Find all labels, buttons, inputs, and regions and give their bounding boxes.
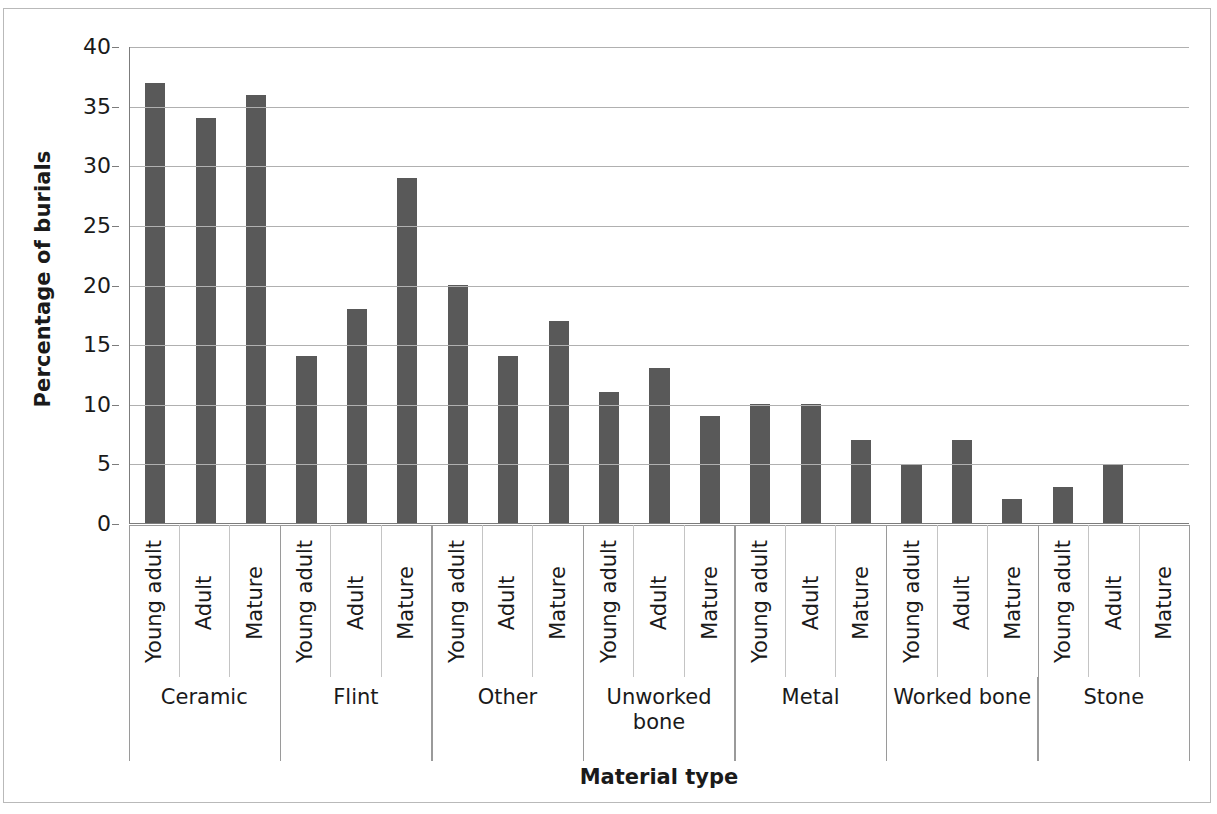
bar (196, 118, 216, 523)
age-label: Mature (1001, 543, 1025, 663)
y-axis-tick-mark (112, 345, 119, 346)
age-label: Young adult (445, 543, 469, 663)
age-label-cell: Mature (533, 525, 584, 677)
age-label-cell: Young adult (887, 525, 938, 677)
age-label-cell: Adult (331, 525, 382, 677)
age-label: Mature (1152, 543, 1176, 663)
y-axis-tick-label: 0 (63, 513, 111, 535)
age-label-cell: Adult (483, 525, 534, 677)
material-group-label-cell: Stone (1038, 677, 1189, 761)
age-label: Mature (394, 543, 418, 663)
y-axis-tick-mark (112, 226, 119, 227)
y-axis-tick-label: 35 (63, 96, 111, 118)
age-label-cell: Mature (1140, 525, 1190, 677)
chart-frame: Percentage of burials 4035302520151050 Y… (3, 8, 1211, 803)
age-label-cell: Mature (685, 525, 736, 677)
age-label: Mature (546, 543, 570, 663)
y-axis-title: Percentage of burials (28, 139, 58, 419)
age-label: Mature (243, 543, 267, 663)
material-group-label: Metal (782, 685, 840, 710)
bar (347, 309, 367, 523)
age-label-cell: Young adult (432, 525, 483, 677)
age-label-cell: Young adult (735, 525, 786, 677)
material-group-label: Worked bone (893, 685, 1031, 710)
y-axis-tick-mark (112, 47, 119, 48)
y-axis-tick-mark (112, 107, 119, 108)
material-group-label-cell: Worked bone (887, 677, 1039, 761)
bar (145, 83, 165, 523)
material-group-label-cell: Other (432, 677, 584, 761)
age-group-labels: Young adultAdultMatureYoung adultAdultMa… (129, 525, 1189, 677)
x-axis-title: Material type (129, 765, 1189, 789)
gridline (130, 47, 1189, 48)
material-group-label-cell: Flint (281, 677, 433, 761)
bar (901, 464, 921, 524)
age-label-cell: Adult (180, 525, 231, 677)
gridline (130, 345, 1189, 346)
material-group-label-cell: Unworked bone (584, 677, 736, 761)
age-label-cell: Adult (786, 525, 837, 677)
age-label-cell: Adult (1089, 525, 1140, 677)
bar (549, 321, 569, 523)
y-axis-tick-mark (112, 286, 119, 287)
age-label: Young adult (597, 543, 621, 663)
gridline (130, 166, 1189, 167)
group-separator (432, 525, 433, 761)
bar (1002, 499, 1022, 523)
material-group-label: Stone (1083, 685, 1144, 710)
bar (1053, 487, 1073, 523)
age-label: Adult (799, 543, 823, 663)
age-label: Young adult (293, 543, 317, 663)
group-separator (735, 525, 736, 761)
age-label: Adult (495, 543, 519, 663)
y-axis-tick-label: 10 (63, 394, 111, 416)
y-axis-tick-mark (112, 405, 119, 406)
age-label-cell: Young adult (1039, 525, 1090, 677)
age-label-cell: Adult (938, 525, 989, 677)
age-label-cell: Mature (230, 525, 281, 677)
group-separator (280, 525, 281, 761)
age-label: Adult (192, 543, 216, 663)
material-group-label: Other (478, 685, 538, 710)
gridline (130, 405, 1189, 406)
y-axis-tick-labels: 4035302520151050 (64, 9, 119, 814)
age-label-cell: Young adult (281, 525, 332, 677)
y-axis-tick-mark (112, 464, 119, 465)
age-label-cell: Young adult (584, 525, 635, 677)
age-label: Young adult (900, 543, 924, 663)
y-axis-tick-mark (112, 166, 119, 167)
y-axis-tick-label: 15 (63, 334, 111, 356)
y-axis-tick-label: 30 (63, 155, 111, 177)
group-separator (1038, 525, 1039, 761)
bar (246, 95, 266, 523)
plot-area (129, 47, 1189, 524)
gridline (130, 107, 1189, 108)
age-label-cell: Mature (988, 525, 1039, 677)
age-label: Adult (1102, 543, 1126, 663)
y-axis-tick-label: 20 (63, 275, 111, 297)
y-axis-tick-label: 40 (63, 36, 111, 58)
y-axis-title-text: Percentage of burials (31, 151, 55, 408)
y-axis-tick-mark (112, 524, 119, 525)
age-label: Young adult (1051, 543, 1075, 663)
age-label: Adult (950, 543, 974, 663)
age-label-cell: Young adult (129, 525, 180, 677)
gridline (130, 464, 1189, 465)
age-label: Adult (647, 543, 671, 663)
group-separator (886, 525, 887, 761)
y-axis-tick-label: 25 (63, 215, 111, 237)
material-group-label-cell: Metal (735, 677, 887, 761)
bar (700, 416, 720, 523)
gridline (130, 286, 1189, 287)
age-label: Young adult (748, 543, 772, 663)
age-label: Mature (849, 543, 873, 663)
material-group-labels: CeramicFlintOtherUnworked boneMetalWorke… (129, 677, 1189, 761)
material-group-label: Ceramic (161, 685, 248, 710)
group-separator (583, 525, 584, 761)
age-label-cell: Adult (634, 525, 685, 677)
bar (952, 440, 972, 523)
bar (851, 440, 871, 523)
bar (397, 178, 417, 523)
gridline (130, 226, 1189, 227)
material-group-label-cell: Ceramic (129, 677, 281, 761)
